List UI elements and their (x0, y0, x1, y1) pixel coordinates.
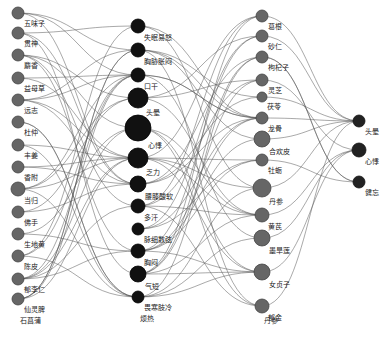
node-label: 健忘 (365, 188, 379, 197)
node-label: 畏寒肢冷 (144, 303, 172, 312)
node-label: 当归 (24, 196, 38, 205)
node-label: 气短 (145, 282, 159, 291)
node-label: 丹参 (264, 316, 278, 325)
node-label: 合欢皮 (269, 147, 290, 156)
node-label: 黄芪 (268, 222, 282, 231)
node-label: 益母草 (24, 84, 45, 93)
node-herbs-left[interactable] (12, 27, 24, 39)
node-herbs-left[interactable] (12, 7, 24, 19)
edge (138, 26, 262, 188)
node-label: 贯神 (24, 39, 38, 48)
node-herbs-right[interactable] (256, 51, 268, 63)
node-label: 丰姜 (24, 151, 38, 160)
node-label: 胸胁胀闷 (144, 57, 172, 66)
node-herbs-right[interactable] (254, 264, 270, 280)
node-label: 头晕 (146, 108, 160, 117)
node-label: 心悸 (365, 157, 379, 166)
node-label: 枸杞子 (268, 63, 289, 72)
node-herbs-left[interactable] (12, 293, 24, 305)
node-label: 口干 (144, 83, 158, 91)
node-diseases-right[interactable] (353, 176, 365, 188)
node-herbs-left[interactable] (12, 250, 24, 262)
node-herbs-left[interactable] (12, 228, 24, 240)
node-label: 乏力 (146, 168, 160, 177)
network-graph: 五味子贯神麝香益母草远志杜仲丰姜香附当归佛手生地黄陈皮郁李仁仙灵脾石菖蒲失眠易怒… (0, 0, 389, 344)
node-label: 腰膝酸软 (145, 192, 173, 201)
node-herbs-left[interactable] (12, 49, 24, 61)
node-label: 佛手 (24, 218, 38, 227)
node-label: 失眠易怒 (144, 33, 172, 42)
node-label: 砂仁 (268, 42, 282, 51)
node-herbs-right[interactable] (253, 179, 271, 197)
node-herbs-right[interactable] (254, 131, 270, 147)
edge (18, 75, 138, 78)
node-herbs-left[interactable] (12, 161, 24, 173)
node-label: 远志 (24, 106, 38, 115)
node-herbs-right[interactable] (255, 208, 269, 222)
node-label: 烦热 (140, 314, 154, 323)
nodes-layer (11, 7, 366, 313)
node-herbs-right[interactable] (256, 74, 268, 86)
node-herbs-right[interactable] (256, 112, 268, 124)
node-symptoms-middle[interactable] (131, 19, 145, 33)
node-herbs-left[interactable] (12, 273, 24, 285)
node-label: 石菖蒲 (20, 316, 41, 325)
node-label: 茯苓 (267, 102, 281, 111)
node-label: 牡蛎 (268, 166, 282, 175)
node-herbs-right[interactable] (256, 154, 268, 166)
node-symptoms-middle[interactable] (131, 43, 145, 57)
node-symptoms-middle[interactable] (130, 176, 146, 192)
node-label: 香附 (24, 173, 38, 182)
edge (138, 118, 262, 251)
node-symptoms-middle[interactable] (132, 291, 144, 303)
edges-layer (18, 13, 359, 306)
node-label: 丹参 (269, 197, 283, 206)
node-label: 麝香 (24, 61, 38, 70)
node-symptoms-middle[interactable] (131, 244, 145, 258)
node-label: 龙骨 (268, 124, 282, 133)
node-label: 灵芝 (268, 86, 282, 95)
node-label: 郁李仁 (24, 285, 45, 294)
node-label: 胸闷 (144, 258, 158, 267)
node-label: 五味子 (24, 19, 45, 28)
node-herbs-right[interactable] (257, 92, 267, 102)
node-herbs-right[interactable] (255, 299, 269, 313)
node-symptoms-middle[interactable] (131, 68, 145, 82)
node-label: 生地黄 (24, 240, 45, 249)
node-label: 头晕 (365, 127, 379, 136)
node-herbs-left[interactable] (12, 139, 24, 151)
labels-layer: 五味子贯神麝香益母草远志杜仲丰姜香附当归佛手生地黄陈皮郁李仁仙灵脾石菖蒲失眠易怒… (20, 19, 379, 325)
node-symptoms-middle[interactable] (132, 223, 144, 235)
node-symptoms-middle[interactable] (128, 88, 148, 108)
node-label: 女贞子 (269, 280, 290, 289)
node-herbs-right[interactable] (254, 230, 270, 246)
node-symptoms-middle[interactable] (128, 148, 148, 168)
node-diseases-right[interactable] (353, 115, 365, 127)
node-herbs-left[interactable] (12, 206, 24, 218)
node-label: 陈皮 (24, 262, 38, 271)
node-label: 心悸 (148, 141, 162, 150)
edge (262, 118, 359, 121)
node-diseases-right[interactable] (352, 143, 366, 157)
node-label: 墨旱莲 (269, 246, 290, 255)
node-herbs-right[interactable] (256, 30, 268, 42)
node-label: 脉细数弦 (144, 235, 172, 244)
node-symptoms-middle[interactable] (125, 115, 151, 141)
node-herbs-right[interactable] (256, 10, 268, 22)
node-label: 杜仲 (24, 128, 38, 137)
node-herbs-left[interactable] (11, 182, 25, 196)
node-symptoms-middle[interactable] (131, 199, 145, 213)
node-symptoms-middle[interactable] (130, 266, 146, 282)
node-label: 仙灵脾 (24, 305, 45, 314)
node-herbs-left[interactable] (12, 94, 24, 106)
node-label: 葛根 (268, 22, 282, 31)
node-herbs-left[interactable] (12, 116, 24, 128)
node-label: 多汗 (144, 213, 158, 222)
node-herbs-left[interactable] (12, 72, 24, 84)
